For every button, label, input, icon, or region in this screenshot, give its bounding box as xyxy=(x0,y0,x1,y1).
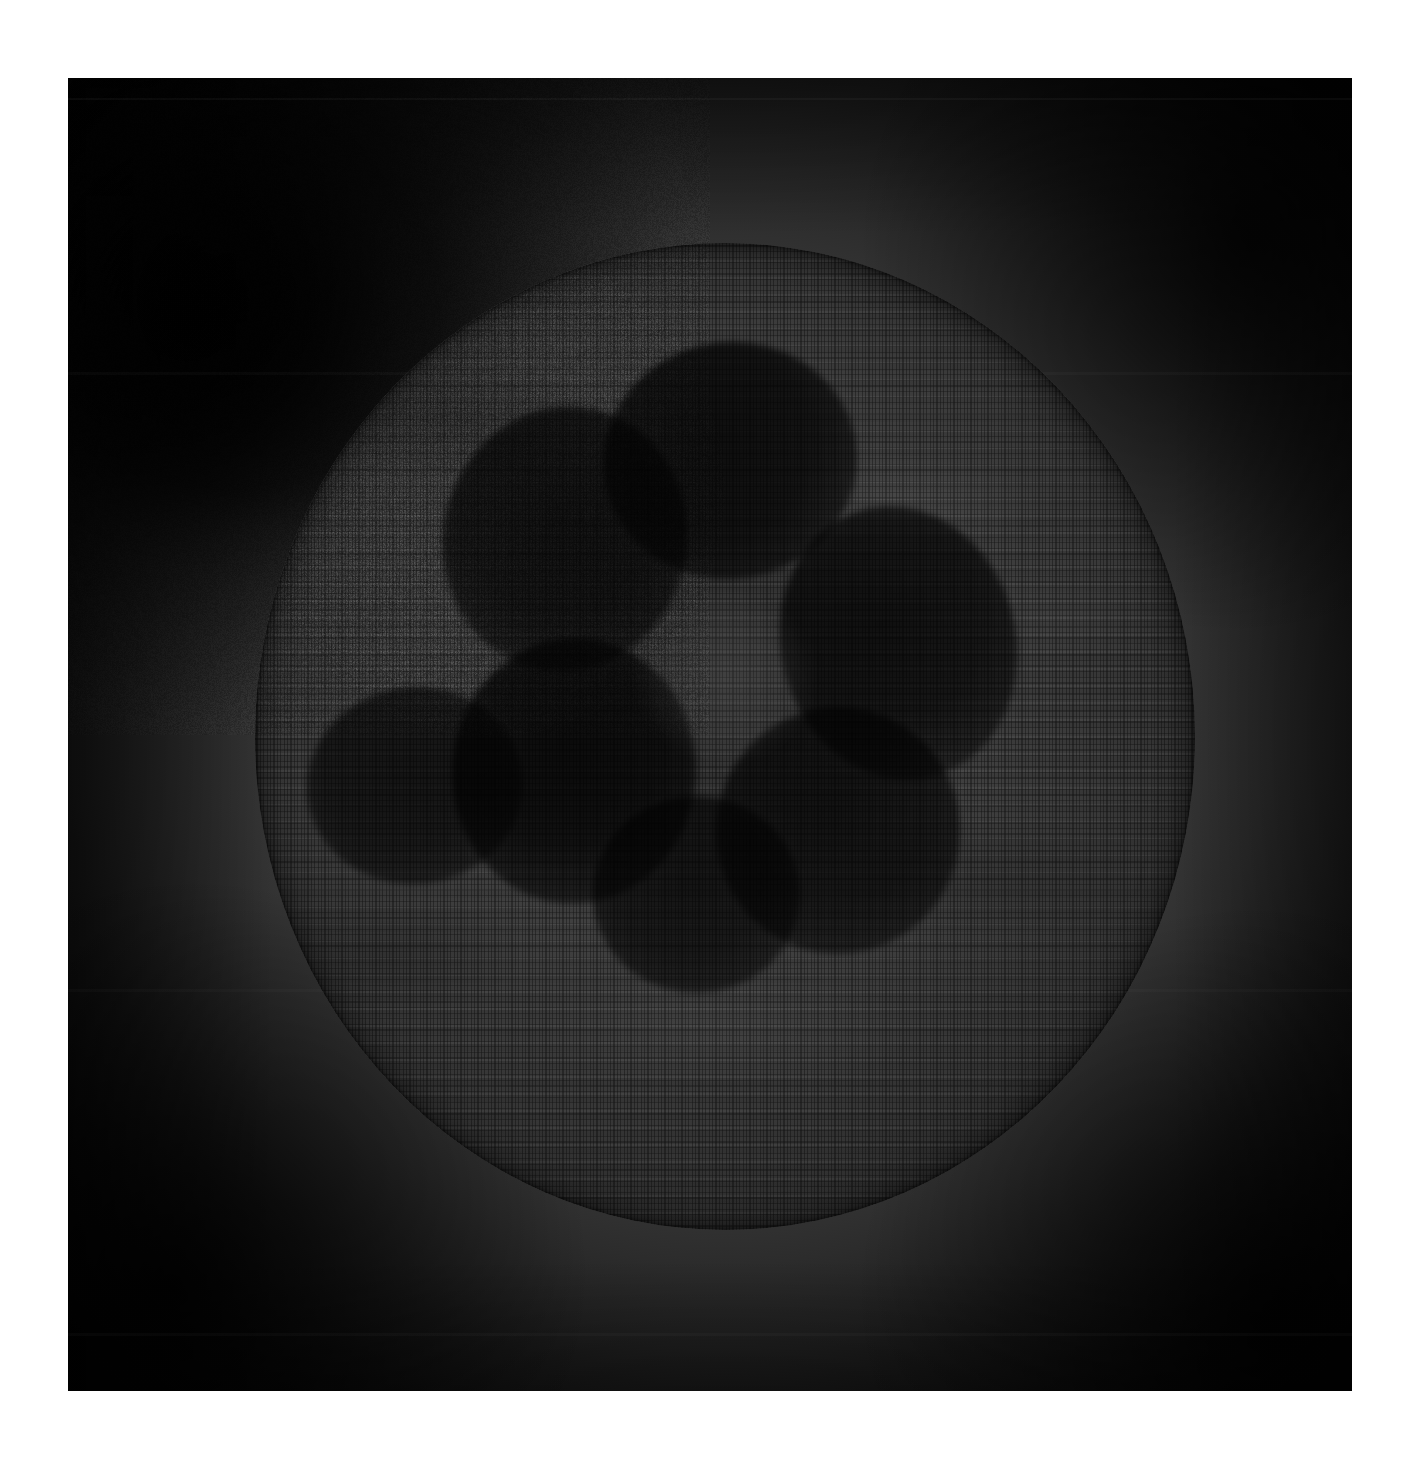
artwork-plate xyxy=(68,78,1352,1391)
sphere-drawn-edge xyxy=(255,243,1195,1230)
sphere xyxy=(255,243,1195,1230)
artwork-canvas xyxy=(0,0,1420,1461)
